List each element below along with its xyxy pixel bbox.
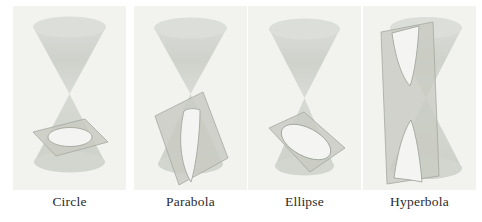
parabola-diagram [134, 6, 247, 190]
panel-hyperbola [363, 6, 476, 190]
circle-diagram [13, 6, 126, 190]
cutting-plane [381, 22, 439, 184]
caption-ellipse: Ellipse [248, 194, 361, 210]
caption-hyperbola: Hyperbola [363, 194, 476, 210]
panel-parabola [134, 6, 247, 190]
ellipse-diagram [248, 6, 361, 190]
conic-sections-figure: Circle [0, 0, 482, 222]
panel-circle [13, 6, 126, 190]
caption-parabola: Parabola [134, 194, 247, 210]
hyperbola-diagram [363, 6, 476, 190]
caption-circle: Circle [13, 194, 126, 210]
circle-cross-section [48, 128, 92, 147]
panel-ellipse [248, 6, 361, 190]
